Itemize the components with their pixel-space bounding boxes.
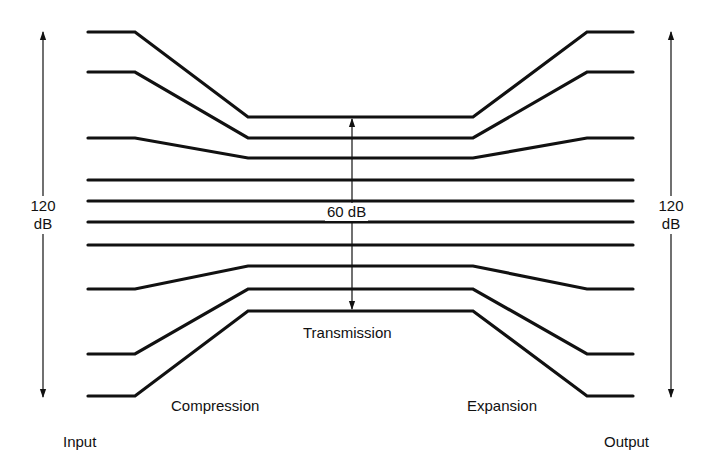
compander-diagram — [0, 0, 703, 475]
left-range-value: 120 — [26, 197, 60, 215]
left-range-label: 120 dB — [26, 196, 60, 234]
expansion-label: Expansion — [467, 398, 537, 413]
signal-level-line-3 — [88, 138, 633, 158]
compression-label: Compression — [171, 398, 259, 413]
right-range-label: 120 dB — [654, 196, 688, 234]
left-range-unit: dB — [26, 215, 60, 233]
right-range-unit: dB — [654, 215, 688, 233]
signal-level-line-8 — [88, 266, 633, 289]
transmission-label: Transmission — [303, 325, 392, 340]
middle-range-label: 60 dB — [325, 203, 368, 221]
signal-level-line-2 — [88, 72, 633, 138]
right-range-value: 120 — [654, 197, 688, 215]
signal-level-line-1 — [88, 32, 633, 117]
signal-level-line-9 — [88, 289, 633, 354]
input-label: Input — [63, 434, 96, 449]
output-label: Output — [604, 434, 649, 449]
